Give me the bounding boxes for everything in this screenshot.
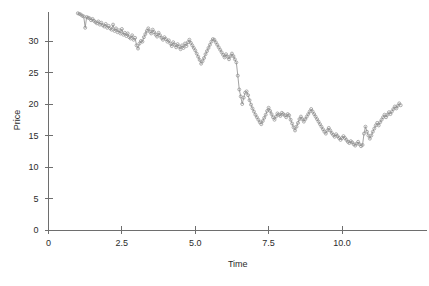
y-tick-label: 0 <box>7 225 39 235</box>
chart-container: 02.55.07.510.0 051015202530 Time Price <box>0 0 429 286</box>
x-tick-label: 0 <box>29 238 69 248</box>
y-tick-label: 30 <box>7 36 39 46</box>
y-tick-label: 5 <box>7 194 39 204</box>
y-tick-label: 25 <box>7 68 39 78</box>
x-axis-title: Time <box>208 259 268 269</box>
axes-group <box>45 12 428 234</box>
x-tick-label: 7.5 <box>249 238 289 248</box>
y-axis-title: Price <box>12 90 22 150</box>
y-tick-label: 10 <box>7 162 39 172</box>
x-tick-label: 5.0 <box>175 238 215 248</box>
data-series-group <box>76 12 402 148</box>
x-tick-label: 2.5 <box>102 238 142 248</box>
x-tick-label: 10.0 <box>322 238 362 248</box>
